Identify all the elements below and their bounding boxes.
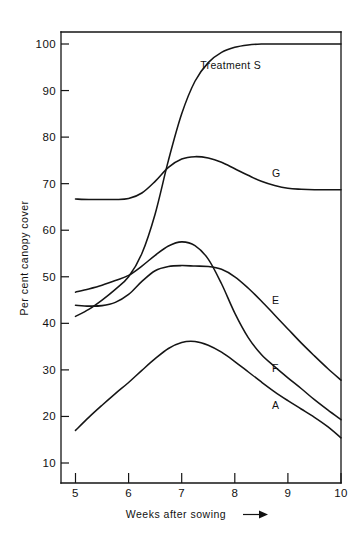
series-curve-treatment-s <box>76 44 342 316</box>
y-tick-label-70: 70 <box>42 178 56 190</box>
chart-figure: 102030405060708090100 5678910 Treatment … <box>0 0 364 541</box>
x-tick-label-10: 10 <box>334 487 348 499</box>
x-axis-title: Weeks after sowing <box>126 508 226 520</box>
y-tick-label-20: 20 <box>42 410 56 422</box>
x-axis-ticks <box>76 473 342 483</box>
canopy-cover-line-chart: 102030405060708090100 5678910 Treatment … <box>0 0 364 541</box>
series-curve-g <box>76 157 342 200</box>
series-inline-labels: Treatment SGFEA <box>200 59 280 411</box>
series-curve-a <box>76 341 342 438</box>
series-label-a: A <box>272 399 279 411</box>
y-tick-label-100: 100 <box>36 38 56 50</box>
series-curve-e <box>76 266 342 381</box>
series-curves <box>76 44 342 438</box>
y-tick-label-60: 60 <box>42 224 56 236</box>
series-label-treatment-s: Treatment S <box>200 59 261 71</box>
right-arrow-icon <box>243 511 268 519</box>
x-tick-label-7: 7 <box>178 487 185 499</box>
y-axis-ticks <box>61 44 69 463</box>
x-tick-label-6: 6 <box>125 487 132 499</box>
series-label-g: G <box>272 167 280 179</box>
x-tick-label-5: 5 <box>72 487 79 499</box>
y-tick-label-40: 40 <box>42 317 56 329</box>
y-tick-label-50: 50 <box>42 271 56 283</box>
x-axis-tick-labels: 5678910 <box>72 487 348 499</box>
y-tick-label-80: 80 <box>42 131 56 143</box>
series-label-e: E <box>272 294 279 306</box>
x-tick-label-8: 8 <box>231 487 238 499</box>
x-tick-label-9: 9 <box>285 487 292 499</box>
y-axis-title: Per cent canopy cover <box>18 201 30 316</box>
y-axis-tick-labels: 102030405060708090100 <box>36 38 56 469</box>
y-tick-label-90: 90 <box>42 85 56 97</box>
series-label-f: F <box>272 362 279 374</box>
y-tick-label-30: 30 <box>42 364 56 376</box>
plot-frame <box>61 32 341 483</box>
y-tick-label-10: 10 <box>42 457 56 469</box>
